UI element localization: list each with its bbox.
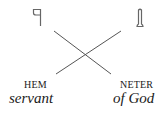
transliteration-label-hem: HEM: [24, 80, 47, 90]
connector-line-left-to-right: [54, 31, 111, 74]
gloss-label-servant: servant: [9, 91, 53, 106]
hem-hieroglyph-icon: [137, 9, 143, 26]
connector-line-right-to-left: [56, 31, 121, 74]
transliteration-label-neter: NETER: [120, 80, 153, 90]
gloss-label-of-god: of God: [113, 91, 154, 106]
netjer-flag-hieroglyph-icon: [34, 9, 41, 26]
